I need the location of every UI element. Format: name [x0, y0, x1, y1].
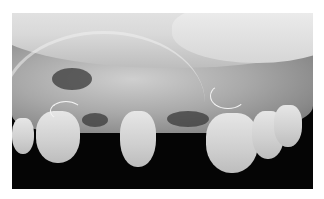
tooth [12, 118, 34, 154]
clasp-wire [50, 101, 82, 121]
clinical-dental-photo: Grayscale clinical photograph of the upp… [12, 13, 313, 189]
dark-tissue-patch [52, 68, 92, 90]
extraction-site [167, 111, 209, 127]
tooth [120, 111, 156, 167]
extraction-site [82, 113, 108, 127]
clasp-wire [210, 83, 246, 109]
tooth [274, 105, 302, 147]
tooth [206, 113, 258, 173]
